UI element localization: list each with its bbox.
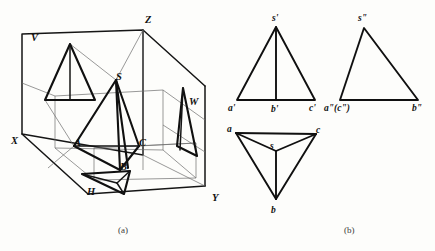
grid-line-7 <box>94 178 196 180</box>
point-label-s-double-prime: s" <box>357 13 367 23</box>
construction-grid <box>22 30 205 180</box>
ortho-top-view: a c b s <box>227 124 321 215</box>
top-view-edge-cb <box>276 134 316 199</box>
v-plane-front-view-triangle <box>45 44 95 100</box>
vertex-label-A: A <box>73 137 81 148</box>
c-to-w-construction <box>139 143 196 146</box>
z-to-w-top-edge <box>143 30 205 86</box>
a-to-h-construction <box>48 146 74 168</box>
caption-a: (a) <box>118 225 128 235</box>
point-label-ac-double-prime: a"(c") <box>324 103 350 114</box>
orthographic-three-view: a' b' c' s' a"(c") b" s" a c <box>227 13 422 235</box>
figure-root: Z X Y V W H S A B C (a) a' b' c' s' <box>0 0 435 251</box>
vertex-label-C: C <box>139 137 147 148</box>
point-label-b-prime: b' <box>271 104 279 114</box>
axis-label-x: X <box>10 135 19 146</box>
point-label-c-prime: c' <box>309 103 316 113</box>
triangular-pyramid-solid <box>74 80 139 170</box>
v-plane-outline <box>22 30 143 155</box>
ortho-side-view: a"(c") b" s" <box>324 13 422 114</box>
side-view-triangle-outline <box>340 28 418 100</box>
caption-b: (b) <box>344 225 355 235</box>
vertex-label-S: S <box>116 71 122 82</box>
pictorial-projection-box: Z X Y V W H S A B C (a) <box>10 14 220 235</box>
point-label-s-prime: s' <box>271 13 279 23</box>
axis-label-z: Z <box>144 14 152 25</box>
technical-drawing-canvas: Z X Y V W H S A B C (a) a' b' c' s' <box>0 0 435 251</box>
projection-box-frame <box>22 30 205 194</box>
frontal-plane-v <box>22 30 143 155</box>
ortho-front-view: a' b' c' s' <box>228 13 316 114</box>
top-view-edge-ac <box>236 133 316 134</box>
point-label-a: a <box>227 124 232 134</box>
h-plane-front-edge <box>88 186 205 194</box>
point-label-b-double-prime: b" <box>412 103 422 113</box>
point-label-s: s <box>269 141 274 151</box>
grid-line-6 <box>163 150 196 178</box>
plane-label-v: V <box>31 32 39 43</box>
vertex-label-B: B <box>119 161 127 172</box>
plane-label-w: W <box>189 96 199 107</box>
point-label-b: b <box>271 205 276 215</box>
plane-label-h: H <box>86 186 96 197</box>
axis-label-y: Y <box>212 192 220 203</box>
point-label-a-prime: a' <box>228 103 236 113</box>
point-label-c: c <box>316 125 321 135</box>
grid-line-14 <box>163 125 205 152</box>
